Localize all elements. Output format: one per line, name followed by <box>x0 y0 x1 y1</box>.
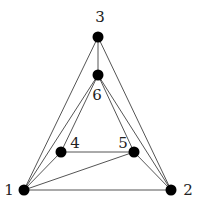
graph-diagram: 123456 <box>0 0 201 209</box>
node-label-6: 6 <box>92 86 102 104</box>
node-1 <box>19 185 30 196</box>
node-6 <box>93 70 104 81</box>
edge-2-5 <box>134 152 171 190</box>
edge-1-5 <box>24 152 134 190</box>
node-label-2: 2 <box>183 181 193 199</box>
node-label-4: 4 <box>70 134 80 152</box>
node-4 <box>56 147 67 158</box>
edge-2-3 <box>98 37 171 190</box>
node-label-3: 3 <box>95 8 105 26</box>
node-3 <box>93 32 104 43</box>
node-label-5: 5 <box>118 134 128 152</box>
node-label-1: 1 <box>4 181 14 199</box>
edges-group <box>24 37 171 190</box>
edge-1-6 <box>24 75 98 190</box>
node-5 <box>129 147 140 158</box>
edge-5-6 <box>98 75 134 152</box>
edge-1-3 <box>24 37 98 190</box>
edge-1-4 <box>24 152 61 190</box>
node-2 <box>166 185 177 196</box>
edge-2-6 <box>98 75 171 190</box>
